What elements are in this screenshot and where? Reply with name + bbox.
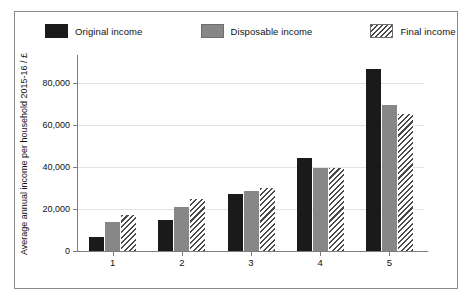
y-axis-title: Average annual income per household 2015… [19, 55, 29, 255]
x-tick-label-1: 1 [110, 257, 115, 268]
bar-disposable-income-quintile-3 [244, 191, 259, 251]
x-tick-1 [113, 252, 114, 256]
bar-final-income-quintile-1 [121, 215, 136, 251]
legend-item-original-income[interactable]: Original income [45, 24, 143, 38]
chart-figure: Original income Disposable income Final … [0, 0, 470, 304]
bar-disposable-income-quintile-1 [105, 222, 120, 251]
legend-label-original-income: Original income [75, 26, 143, 37]
bar-disposable-income-quintile-2 [174, 207, 189, 251]
bar-final-income-quintile-3 [260, 188, 275, 251]
x-tick-label-2: 2 [179, 257, 184, 268]
legend-item-disposable-income[interactable]: Disposable income [201, 24, 313, 38]
bar-original-income-quintile-4 [297, 158, 312, 251]
x-tick-3 [251, 252, 252, 256]
bar-original-income-quintile-2 [158, 220, 173, 251]
x-tick-5 [389, 252, 390, 256]
plot-area [78, 58, 424, 251]
x-tick-4 [320, 252, 321, 256]
solid-gray-swatch-icon [201, 24, 224, 38]
legend-label-final-income: Final income [400, 26, 455, 37]
bar-disposable-income-quintile-5 [382, 105, 397, 251]
x-axis: 12345 [78, 252, 428, 274]
y-tick-label-80000: 80,000 [42, 78, 70, 88]
x-tick-label-5: 5 [387, 257, 392, 268]
caption-fragment [0, 296, 470, 304]
solid-black-swatch-icon [45, 24, 68, 38]
legend-label-disposable-income: Disposable income [231, 26, 313, 37]
hatched-swatch-icon [370, 24, 393, 38]
y-tick-label-0: 0 [65, 246, 70, 256]
bar-final-income-quintile-2 [190, 199, 205, 251]
y-tick-label-20000: 20,000 [42, 204, 70, 214]
bar-final-income-quintile-4 [329, 168, 344, 251]
bar-original-income-quintile-5 [366, 69, 381, 251]
x-tick-label-3: 3 [248, 257, 253, 268]
chart-legend: Original income Disposable income Final … [45, 22, 456, 40]
y-tick-label-40000: 40,000 [42, 162, 70, 172]
x-tick-label-4: 4 [318, 257, 323, 268]
bar-original-income-quintile-3 [228, 194, 243, 251]
bar-final-income-quintile-5 [398, 114, 413, 251]
y-tick-label-60000: 60,000 [42, 120, 70, 130]
bar-original-income-quintile-1 [89, 237, 104, 251]
bar-disposable-income-quintile-4 [313, 168, 328, 251]
legend-item-final-income[interactable]: Final income [370, 24, 455, 38]
x-tick-2 [182, 252, 183, 256]
